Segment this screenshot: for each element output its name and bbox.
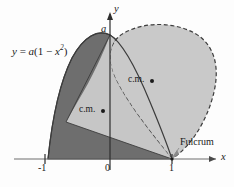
fulcrum-label: Fulcrum	[180, 137, 214, 147]
x-axis-label: x	[221, 152, 226, 163]
equation-close-paren: )	[64, 45, 68, 57]
center-of-mass-label-lower: c.m.	[79, 105, 95, 115]
y-axis-label: y	[114, 4, 119, 15]
peak-value-label: a	[101, 24, 106, 35]
x-axis-arrowhead	[209, 156, 216, 162]
cm-lower-marker-dot	[101, 109, 105, 113]
equation-label: y = a(1 − x2)	[12, 44, 67, 57]
x-tick-label-one: 1	[169, 163, 174, 173]
y-axis-arrowhead	[107, 12, 113, 20]
equation-open-paren: (1 −	[34, 45, 55, 57]
cm-upper-marker-dot	[150, 79, 154, 83]
x-tick-label-origin: 0	[105, 163, 110, 173]
figure-graphics	[0, 0, 234, 187]
figure-canvas: y = a(1 − x2) y x a -1 0 1 c.m. c.m. Ful…	[0, 0, 234, 187]
fulcrum-point	[170, 157, 173, 160]
equation-eq: =	[17, 45, 29, 57]
x-tick-label-neg-one: -1	[38, 163, 46, 173]
center-of-mass-label-upper: c.m.	[128, 75, 144, 85]
